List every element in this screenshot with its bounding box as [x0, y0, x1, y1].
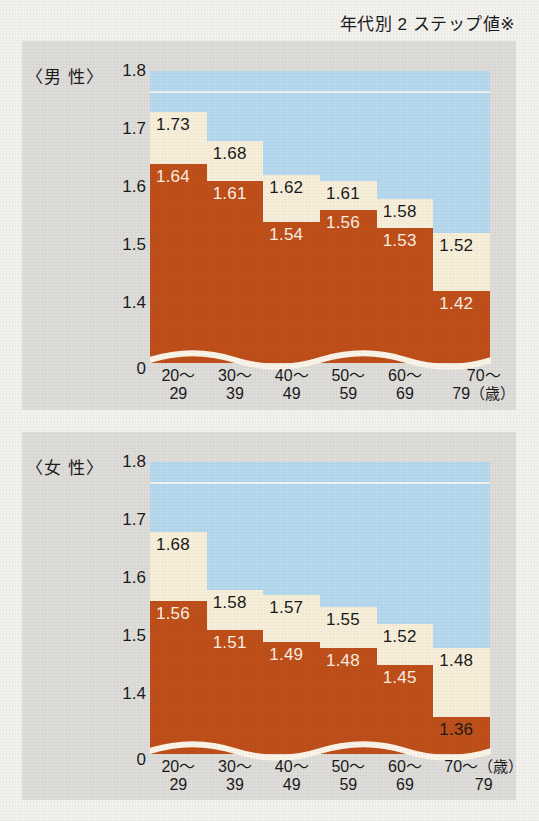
- x-axis-tick: 20～29: [150, 758, 207, 795]
- y-axis-tick: 1.6: [100, 177, 146, 197]
- x-axis-tick: 40～49: [263, 758, 320, 795]
- x-tick-line1: 50～: [320, 367, 377, 385]
- x-tick-line2: 39: [207, 385, 264, 403]
- x-tick-line1: 60～: [377, 367, 434, 385]
- x-tick-line2: 29: [150, 776, 207, 794]
- x-tick-line2: 79: [433, 776, 534, 794]
- value-label-orange: 1.42: [439, 294, 473, 314]
- value-label-orange: 1.64: [156, 167, 190, 187]
- value-label-orange: 1.61: [213, 184, 247, 204]
- chart-female: 〈女 性〉 1.81.71.61.51.40 1.681.561.581.511…: [0, 432, 539, 800]
- x-tick-line2: 79（歳）: [433, 385, 534, 403]
- y-axis-tick: 0: [100, 359, 146, 379]
- x-tick-line1: 40～: [263, 758, 320, 776]
- x-tick-line1: 50～: [320, 758, 377, 776]
- bar-lower-orange[interactable]: [207, 181, 264, 363]
- y-axis-tick: 1.4: [100, 293, 146, 313]
- value-label-cream: 1.73: [156, 115, 190, 135]
- value-label-cream: 1.52: [383, 627, 417, 647]
- value-label-orange: 1.56: [326, 213, 360, 233]
- chart-page: 年代別 2 ステップ値※ 〈男 性〉 1.81.71.61.51.40 1.73…: [0, 0, 539, 821]
- bar-column[interactable]: [263, 71, 320, 363]
- x-tick-line2: 69: [377, 776, 434, 794]
- value-label-orange: 1.49: [269, 645, 303, 665]
- bar-column[interactable]: [207, 71, 264, 363]
- x-axis-tick: 20～29: [150, 367, 207, 404]
- value-label-cream: 1.68: [213, 144, 247, 164]
- value-label-cream: 1.62: [269, 178, 303, 198]
- y-axis-tick: 1.6: [100, 568, 146, 588]
- y-axis-tick: 1.4: [100, 684, 146, 704]
- x-tick-line2: 49: [263, 385, 320, 403]
- bar-column[interactable]: [320, 462, 377, 754]
- value-label-cream: 1.58: [383, 202, 417, 222]
- value-label-cream: 1.55: [326, 610, 360, 630]
- x-tick-line1: 30～: [207, 367, 264, 385]
- y-axis-tick: 1.7: [100, 119, 146, 139]
- x-tick-line1: 60～: [377, 758, 434, 776]
- value-label-cream: 1.57: [269, 598, 303, 618]
- x-tick-line1: 40～: [263, 367, 320, 385]
- y-axis-tick: 1.5: [100, 626, 146, 646]
- x-axis-female: 20～2930～3940～4950～5960～6970～（歳）79: [150, 758, 490, 814]
- chart-male: 〈男 性〉 1.81.71.61.51.40 1.731.641.681.611…: [0, 41, 539, 410]
- x-axis-tick: 50～59: [320, 367, 377, 404]
- plot-area-male: 1.731.641.681.611.621.541.611.561.581.53…: [150, 71, 490, 363]
- x-axis-unit: （歳）: [478, 758, 523, 775]
- x-tick-line1: 30～: [207, 758, 264, 776]
- value-label-cream: 1.68: [156, 535, 190, 555]
- value-label-orange: 1.48: [326, 651, 360, 671]
- x-axis-male: 20～2930～3940～4950～5960～6970～79（歳）: [150, 367, 490, 423]
- value-label-cream: 1.58: [213, 593, 247, 613]
- x-axis-tick: 70～79（歳）: [433, 367, 534, 404]
- value-label-orange: 1.56: [156, 604, 190, 624]
- y-axis-tick: 1.8: [100, 452, 146, 472]
- x-tick-line2: 59: [320, 385, 377, 403]
- series-label-female: 〈女 性〉: [26, 454, 104, 479]
- x-tick-line1: 70～（歳）: [433, 758, 534, 776]
- x-axis-tick: 70～（歳）79: [433, 758, 534, 795]
- x-tick-line1: 70～: [433, 367, 534, 385]
- value-label-orange: 1.45: [383, 668, 417, 688]
- value-label-cream: 1.48: [439, 651, 473, 671]
- bar-column[interactable]: [433, 462, 490, 754]
- bar-lower-orange[interactable]: [150, 164, 207, 363]
- x-axis-unit: （歳）: [470, 385, 515, 402]
- y-axis-tick: 0: [100, 750, 146, 770]
- series-label-male: 〈男 性〉: [26, 63, 104, 88]
- x-axis-tick: 40～49: [263, 367, 320, 404]
- x-tick-line1: 20～: [150, 367, 207, 385]
- page-title: 年代別 2 ステップ値※: [340, 10, 515, 35]
- x-axis-tick: 60～69: [377, 758, 434, 795]
- y-axis-tick: 1.8: [100, 61, 146, 81]
- y-axis-tick: 1.7: [100, 510, 146, 530]
- value-label-orange: 1.51: [213, 633, 247, 653]
- x-tick-line2: 59: [320, 776, 377, 794]
- bar-column[interactable]: [377, 462, 434, 754]
- y-axis-tick: 1.5: [100, 235, 146, 255]
- value-label-orange: 1.36: [439, 720, 473, 740]
- x-axis-tick: 50～59: [320, 758, 377, 795]
- y-axis-female: 1.81.71.61.51.40: [94, 432, 146, 800]
- y-axis-male: 1.81.71.61.51.40: [94, 41, 146, 410]
- plot-area-female: 1.681.561.581.511.571.491.551.481.521.45…: [150, 462, 490, 754]
- x-tick-line2: 39: [207, 776, 264, 794]
- x-tick-line2: 69: [377, 385, 434, 403]
- x-tick-line1: 20～: [150, 758, 207, 776]
- value-label-cream: 1.61: [326, 184, 360, 204]
- bar-column[interactable]: [433, 71, 490, 363]
- x-axis-tick: 60～69: [377, 367, 434, 404]
- x-tick-line2: 29: [150, 385, 207, 403]
- value-label-orange: 1.54: [269, 225, 303, 245]
- x-tick-line2: 49: [263, 776, 320, 794]
- value-label-cream: 1.52: [439, 236, 473, 256]
- x-axis-tick: 30～39: [207, 758, 264, 795]
- value-label-orange: 1.53: [383, 231, 417, 251]
- x-axis-tick: 30～39: [207, 367, 264, 404]
